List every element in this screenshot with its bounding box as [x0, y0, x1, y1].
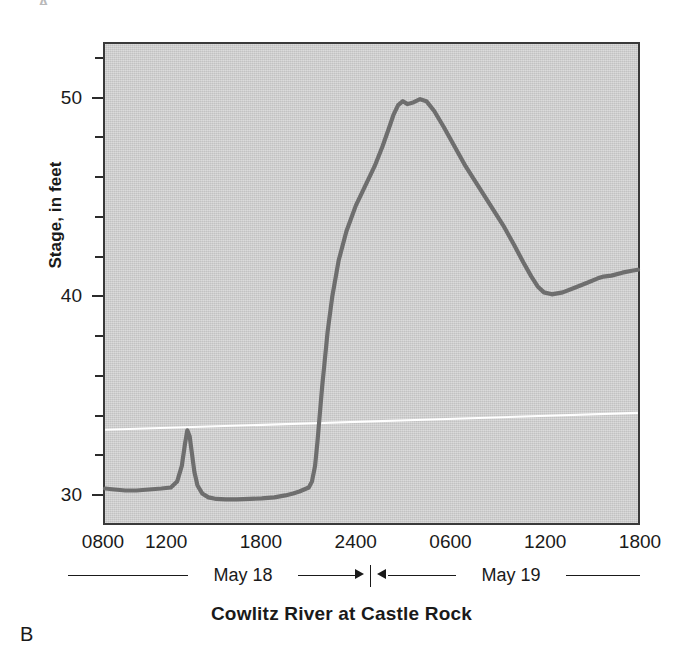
may19-rule-right [566, 575, 640, 576]
y-tick-label-50: 50 [22, 88, 82, 107]
day-label-may19: May 19 [456, 563, 566, 587]
x-tick-label-1200-5: 1200 [510, 531, 580, 552]
y-tick-minor-46 [95, 176, 103, 178]
day-span-annotation-row: May 18 May 19 [0, 563, 683, 589]
x-tick-label-1200-1: 1200 [131, 531, 201, 552]
y-tick-minor-32 [95, 454, 103, 456]
stage-line-series [105, 99, 638, 499]
stage-series-plot [105, 44, 638, 523]
day-boundary-divider [370, 565, 371, 587]
may19-rule-left [388, 575, 456, 576]
plot-area [103, 42, 640, 525]
y-tick-minor-38 [95, 335, 103, 337]
scan-crease-line [105, 413, 638, 430]
y-tick-minor-42 [95, 256, 103, 258]
y-tick-major-30 [92, 494, 103, 496]
x-tick-label-1800-2: 1800 [226, 531, 296, 552]
x-tick-label-0600-4: 0600 [415, 531, 485, 552]
y-tick-label-30: 30 [22, 485, 82, 504]
figure-panel-b: A Stage, in feet 504030 0800120018002400… [0, 0, 683, 651]
chart-title: Cowlitz River at Castle Rock [0, 603, 683, 625]
day-label-may18: May 18 [188, 563, 298, 587]
panel-a-cutoff-artifact: A [38, 0, 52, 5]
y-tick-major-40 [92, 295, 103, 297]
may18-rule-right [298, 575, 358, 576]
y-tick-minor-44 [95, 216, 103, 218]
y-tick-label-40: 40 [22, 286, 82, 305]
arrow-right-icon [355, 569, 364, 579]
y-axis-title: Stage, in feet [46, 135, 66, 295]
x-tick-label-0800-0: 0800 [68, 531, 138, 552]
y-tick-minor-48 [95, 136, 103, 138]
y-tick-minor-52 [95, 57, 103, 59]
y-tick-minor-34 [95, 415, 103, 417]
y-tick-major-50 [92, 97, 103, 99]
x-tick-label-1800-6: 1800 [605, 531, 675, 552]
arrow-left-icon [377, 569, 386, 579]
panel-letter: B [20, 623, 33, 645]
x-tick-label-2400-3: 2400 [321, 531, 391, 552]
may18-rule-left [68, 575, 188, 576]
y-tick-minor-36 [95, 375, 103, 377]
